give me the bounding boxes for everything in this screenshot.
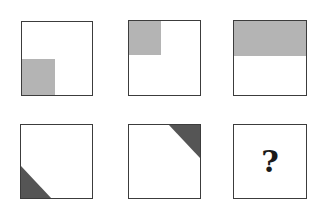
puzzle-cell-r2c3: ? [233, 124, 307, 199]
puzzle-cell-r2c1 [20, 124, 93, 199]
question-mark: ? [234, 147, 306, 177]
light-gray-square-top-left [129, 21, 161, 55]
light-gray-rectangle-top-half [234, 21, 306, 56]
puzzle-cell-r2c2 [128, 124, 201, 199]
dark-triangle-bottom-left [20, 124, 93, 199]
dark-triangle-top-right [128, 124, 201, 199]
puzzle-cell-r1c2 [128, 20, 201, 96]
puzzle-cell-r1c1 [21, 21, 93, 96]
puzzle-cell-r1c3 [233, 20, 307, 96]
light-gray-square-bottom-left [22, 59, 55, 95]
